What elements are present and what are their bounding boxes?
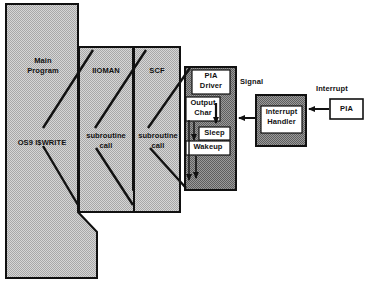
- label-pia-driver-title: PIA Driver: [192, 71, 230, 90]
- label-main-program-top: Main Program: [17, 56, 69, 75]
- label-ioman-bottom: subroutine call: [79, 131, 133, 150]
- label-signal: Signal: [240, 77, 280, 87]
- label-scf-bottom: subroutine call: [132, 131, 184, 150]
- label-sleep: Sleep: [199, 128, 230, 138]
- label-main-program-bottom: OS9 I$WRITE: [6, 138, 78, 148]
- label-interrupt: Interrupt: [316, 84, 364, 94]
- label-output-char: Output Char: [186, 98, 220, 117]
- label-pia-device: PIA: [330, 104, 363, 114]
- label-wakeup: Wakeup: [186, 142, 230, 152]
- label-scf-top: SCF: [136, 66, 178, 76]
- diagram-canvas: Main Program OS9 I$WRITE IIOMAN subrouti…: [0, 0, 368, 287]
- label-ioman-top: IIOMAN: [81, 66, 131, 76]
- label-interrupt-handler: Interrupt Handler: [261, 107, 302, 126]
